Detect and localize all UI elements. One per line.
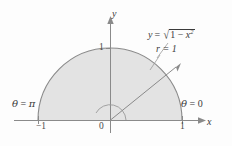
y-axis-label: y bbox=[112, 9, 116, 19]
radius-label-text: r = 1 bbox=[156, 43, 177, 54]
origin-label: 0 bbox=[99, 122, 104, 132]
x-axis-arrowhead bbox=[198, 117, 206, 123]
square-root-icon: √1 − x2 bbox=[162, 28, 194, 40]
theta-pi-equals: = bbox=[18, 98, 29, 109]
equation-equals: = bbox=[152, 29, 162, 40]
x-axis-label: x bbox=[207, 117, 211, 127]
theta-pi-label: θ = π bbox=[12, 99, 35, 109]
equation-radicand-start: 1 − bbox=[170, 29, 186, 40]
equation-label: y=√1 − x2 bbox=[148, 28, 195, 40]
theta-zero-value: 0 bbox=[198, 98, 203, 109]
x-axis-tick-label-1: 1 bbox=[180, 122, 185, 132]
figure-canvas bbox=[0, 0, 232, 146]
theta-zero-label: θ = 0 bbox=[181, 99, 203, 109]
equation-radicand-exponent: 2 bbox=[190, 28, 193, 35]
y-axis-tick-label-1: 1 bbox=[99, 43, 104, 53]
math-figure: y=√1 − x2 r = 1 θ = π θ = 0 1 −1 0 1 x y bbox=[0, 0, 232, 146]
theta-zero-equals: = bbox=[187, 98, 198, 109]
radius-label: r = 1 bbox=[156, 44, 177, 54]
theta-pi-value: π bbox=[29, 98, 36, 109]
radius-vector-arrowhead bbox=[176, 63, 181, 72]
x-axis-tick-label-neg1: −1 bbox=[36, 122, 46, 132]
